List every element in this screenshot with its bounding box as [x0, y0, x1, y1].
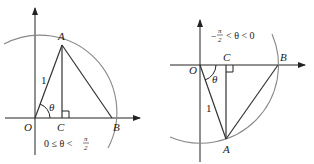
point-label-A-right: A [222, 143, 230, 155]
unit-circle-diagrams: A O C B 1 θ 0 ≤ θ < π 2 A O C B 1 θ − π [0, 0, 314, 164]
point-label-C-left: C [57, 121, 65, 133]
point-label-C-right: C [223, 51, 231, 63]
fraction-numerator-right: π [218, 27, 222, 35]
point-label-O-right: O [189, 64, 197, 76]
condition-right: − π 2 < θ < 0 [211, 27, 255, 44]
radius-label-right: 1 [206, 102, 212, 114]
condition-left: 0 ≤ θ < π 2 [44, 135, 89, 152]
right-angle-marker-right [226, 65, 233, 72]
theta-label-right: θ [212, 73, 218, 85]
condition-text-right: < θ < 0 [226, 30, 255, 41]
radius-label-left: 1 [41, 74, 47, 86]
condition-minus-right: − [211, 31, 217, 42]
point-label-B-right: B [280, 51, 287, 63]
fraction-denominator-right: 2 [218, 36, 222, 44]
fraction-denominator-left: 2 [84, 144, 88, 152]
figure-right: A O C B 1 θ − π 2 < θ < 0 [170, 20, 305, 162]
condition-text-left: 0 ≤ θ < [44, 138, 73, 149]
point-label-B-left: B [113, 121, 120, 133]
point-label-A-left: A [57, 30, 65, 42]
point-label-O-left: O [24, 121, 32, 133]
theta-label-left: θ [49, 101, 55, 113]
figure-left: A O C B 1 θ 0 ≤ θ < π 2 [4, 8, 140, 155]
segment-AB-left [62, 45, 112, 118]
right-angle-marker-left [62, 111, 69, 118]
fraction-numerator-left: π [84, 135, 88, 143]
segment-AB-right [226, 65, 278, 139]
